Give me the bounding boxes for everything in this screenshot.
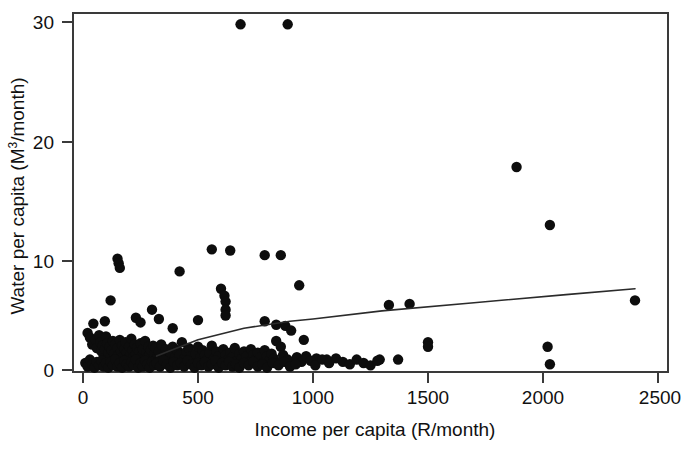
data-point: [235, 19, 245, 29]
y-axis-tickmarks: [62, 22, 73, 370]
x-tick-label: 1500: [407, 387, 449, 408]
data-point: [207, 244, 217, 254]
data-point: [193, 315, 203, 325]
data-point: [154, 314, 164, 324]
data-point: [225, 245, 235, 255]
data-point: [135, 317, 145, 327]
svg-text:Water per capita (M3/month): Water per capita (M3/month): [6, 77, 28, 314]
data-point: [384, 300, 394, 310]
data-point-layer: [80, 19, 640, 373]
data-point: [283, 19, 293, 29]
data-point: [115, 263, 125, 273]
y-tick-label: 0: [43, 360, 54, 381]
data-point: [372, 356, 382, 366]
data-point: [105, 295, 115, 305]
data-point: [545, 220, 555, 230]
plot-canvas: 0 500 1000 1500 2000 2500 0 10 20 30 Inc…: [0, 0, 688, 450]
x-axis-title: Income per capita (R/month): [255, 419, 496, 440]
data-point: [393, 354, 403, 364]
y-axis-title: Water per capita (M3/month): [6, 77, 28, 314]
y-tick-label: 20: [33, 132, 54, 153]
data-point: [88, 318, 98, 328]
data-point: [286, 325, 296, 335]
data-point: [423, 342, 433, 352]
data-point: [271, 320, 281, 330]
data-point: [260, 250, 270, 260]
x-tick-label: 2500: [639, 387, 681, 408]
data-point: [100, 316, 110, 326]
data-point: [147, 304, 157, 314]
data-point: [294, 280, 304, 290]
data-point: [276, 250, 286, 260]
data-point: [174, 266, 184, 276]
y-tick-label: 10: [33, 251, 54, 272]
scatter-plot-figure: 0 500 1000 1500 2000 2500 0 10 20 30 Inc…: [0, 0, 688, 450]
data-point: [299, 335, 309, 345]
data-point: [542, 342, 552, 352]
data-point: [291, 359, 301, 369]
x-axis-tickmarks: [83, 372, 658, 383]
x-tick-label: 500: [182, 387, 214, 408]
data-point: [630, 295, 640, 305]
x-axis-tick-labels: 0 500 1000 1500 2000 2500: [78, 387, 681, 408]
x-tick-label: 1000: [292, 387, 334, 408]
y-axis-title-tail: /month): [7, 77, 28, 141]
data-point: [511, 162, 521, 172]
y-axis-title-main: Water per capita (M: [7, 148, 28, 314]
data-point: [220, 310, 230, 320]
y-axis-tick-labels: 0 10 20 30: [33, 12, 54, 381]
data-point: [545, 359, 555, 369]
data-point: [168, 323, 178, 333]
x-tick-label: 2000: [522, 387, 564, 408]
x-tick-label: 0: [78, 387, 89, 408]
y-tick-label: 30: [33, 12, 54, 33]
